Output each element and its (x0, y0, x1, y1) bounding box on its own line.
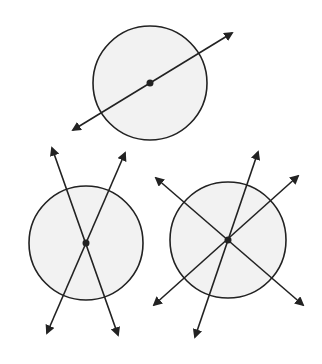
circle-three-lines (154, 152, 303, 337)
center-point (225, 237, 232, 244)
circle-one-line (73, 26, 232, 140)
diagram-canvas (0, 0, 322, 364)
center-point (147, 80, 154, 87)
center-point (83, 240, 90, 247)
circle-two-lines (29, 148, 143, 335)
